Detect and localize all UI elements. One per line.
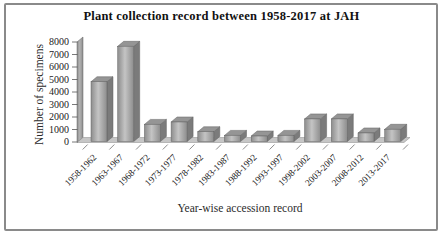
x-tick (83, 145, 88, 150)
bar-1958-1962 (91, 82, 107, 142)
x-tick (350, 145, 355, 150)
bar-2008-2012 (358, 133, 374, 142)
bar-2013-2017 (385, 129, 401, 141)
x-tick (270, 145, 275, 150)
bar-1973-1977 (171, 122, 187, 142)
x-tick (109, 145, 114, 150)
x-tick (376, 145, 381, 150)
x-tick (243, 145, 248, 150)
bar-2003-2007 (331, 119, 347, 142)
chart-image: Plant collection record between 1958-201… (0, 0, 443, 235)
y-tick-label: 4000 (49, 86, 69, 97)
x-tick (189, 145, 194, 150)
bar-side-1963-1967 (134, 41, 140, 141)
bar-1968-1972 (144, 124, 160, 141)
y-tick-label: 5000 (49, 74, 69, 85)
bar-1988-1992 (251, 136, 267, 141)
x-tick (296, 145, 301, 150)
y-tick-label: 1000 (49, 124, 69, 135)
bar-1983-1987 (225, 135, 241, 141)
y-tick-label: 8000 (49, 36, 69, 47)
y-tick-label: 2000 (49, 111, 69, 122)
bar-1978-1982 (198, 132, 214, 142)
x-tick (216, 145, 221, 150)
plot-area: 0100020003000400050006000700080001958-19… (0, 0, 443, 235)
y-tick-label: 0 (64, 136, 69, 147)
bar-1993-1997 (278, 135, 294, 141)
x-tick (136, 145, 141, 150)
x-tick (163, 145, 168, 150)
y-tick-label: 6000 (49, 61, 69, 72)
y-tick-label: 3000 (49, 99, 69, 110)
y-tick-label: 7000 (49, 49, 69, 60)
x-axis-title: Year-wise accession record (40, 202, 440, 214)
x-tick (403, 145, 408, 150)
bar-side-1958-1962 (107, 77, 113, 142)
bar-1963-1967 (118, 46, 134, 141)
wall (77, 37, 83, 143)
x-tick (323, 145, 328, 150)
bar-1998-2002 (305, 119, 321, 142)
